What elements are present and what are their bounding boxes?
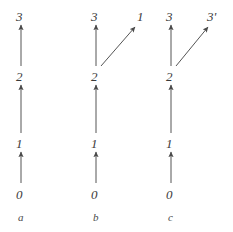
- panel-c-node-label-1: 1: [166, 137, 173, 150]
- panel-a-node-label-0: 0: [16, 188, 23, 201]
- panel-b-arrow-2-to-1-prime-diagonal: [101, 27, 135, 66]
- panel-caption-c: c: [168, 212, 173, 223]
- panel-c-node-label-3: 3: [166, 10, 173, 23]
- panel-b-node-label-2: 2: [91, 70, 98, 83]
- panel-b-node-label-3: 3: [91, 10, 98, 23]
- panel-c-node-label-3-prime: 3': [207, 10, 216, 23]
- panel-caption-b: b: [93, 212, 99, 223]
- panel-b-node-label-1: 1: [91, 137, 98, 150]
- panel-c-node-label-2: 2: [166, 70, 173, 83]
- panel-caption-a: a: [18, 212, 24, 223]
- panel-c-arrow-2-to-3-prime-diagonal: [176, 27, 208, 66]
- diagram-canvas: 0123a01231b01233'c: [0, 0, 233, 232]
- panel-a-node-label-1: 1: [16, 137, 23, 150]
- arrow-layer: [0, 0, 233, 232]
- panel-b-node-label-0: 0: [91, 188, 98, 201]
- panel-a-node-label-2: 2: [16, 70, 23, 83]
- panel-a-node-label-3: 3: [16, 10, 23, 23]
- panel-b-node-label-1: 1: [137, 10, 144, 23]
- panel-c-node-label-0: 0: [166, 188, 173, 201]
